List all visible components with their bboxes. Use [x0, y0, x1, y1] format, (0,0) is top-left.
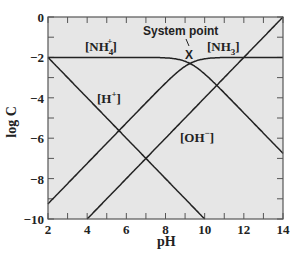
y-tick-label: −10	[24, 212, 44, 227]
y-tick-label: −8	[30, 172, 44, 187]
label-oh-minus: [OH−]	[180, 128, 214, 145]
label-nh4: [NH4+]	[85, 36, 117, 57]
x-tick-label: 14	[277, 222, 291, 237]
x-axis-label: pH	[157, 234, 176, 249]
x-tick-label: 10	[198, 222, 211, 237]
y-tick-label: 0	[38, 10, 45, 25]
system-point-marker: X	[185, 48, 193, 62]
y-tick-label: −4	[30, 91, 44, 106]
x-tick-label: 2	[45, 222, 52, 237]
label-h-plus: [H+]	[97, 89, 121, 106]
x-tick-label: 4	[84, 222, 91, 237]
x-tick-label: 6	[123, 222, 130, 237]
y-tick-label: −6	[30, 131, 44, 146]
y-axis-label: log C	[4, 106, 19, 138]
y-tick-label: −2	[30, 50, 44, 65]
log-c-ph-diagram: 24681012140−2−4−6−8−10 [NH4+] [NH3] [H+]…	[0, 0, 300, 259]
system-point-label: System point	[143, 24, 218, 38]
x-tick-label: 12	[237, 222, 250, 237]
